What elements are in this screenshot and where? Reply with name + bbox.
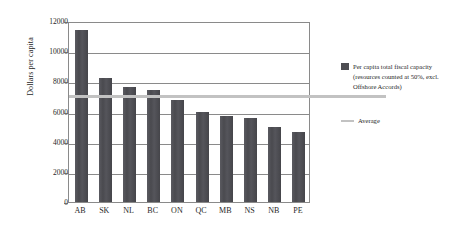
bar-qc (196, 112, 209, 202)
bar-on (171, 100, 184, 202)
bar-bc (147, 90, 160, 202)
y-axis-tick-label: 6000 (20, 109, 68, 117)
bar-mb (220, 116, 233, 202)
legend-item-bar: Per capita total fiscal capacity (resour… (341, 62, 451, 92)
bars-layer (69, 23, 309, 202)
x-axis-tick-label-pe: PE (283, 206, 313, 215)
legend-line-swatch-icon (341, 120, 354, 122)
y-axis-tick-label: 2000 (20, 169, 68, 177)
y-axis-tick-label: 0 (20, 199, 68, 207)
legend-bar-label: Per capita total fiscal capacity (resour… (353, 62, 451, 92)
legend-item-average: Average (341, 116, 451, 126)
plot-area (68, 22, 310, 203)
legend-bar-swatch-icon (341, 63, 349, 70)
y-axis-tick-label: 10000 (20, 48, 68, 56)
y-axis-tick-label: 8000 (20, 78, 68, 86)
average-reference-line (69, 95, 386, 98)
y-axis-tick-label: 12000 (20, 18, 68, 26)
fiscal-capacity-bar-chart: Dollars per capita 020004000600080001000… (0, 0, 453, 227)
y-axis-tick-mark (64, 203, 68, 204)
bar-pe (292, 132, 305, 202)
bar-nb (268, 127, 281, 202)
y-axis-tick-label: 4000 (20, 139, 68, 147)
legend-average-label: Average (358, 116, 380, 126)
bar-ns (244, 118, 257, 202)
bar-nl (123, 87, 136, 202)
bar-ab (75, 30, 88, 202)
